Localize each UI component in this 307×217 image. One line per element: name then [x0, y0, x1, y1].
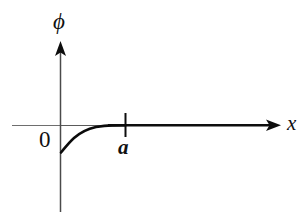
- figure-canvas: ϕ x 0 a: [0, 0, 307, 217]
- plot-area: [0, 0, 307, 217]
- origin-label-zero: 0: [39, 128, 51, 151]
- x-tick-label-a: a: [118, 137, 129, 158]
- x-axis-title-x: x: [287, 113, 296, 134]
- phi-curve: [61, 125, 126, 152]
- y-axis-title-phi: ϕ: [53, 10, 65, 33]
